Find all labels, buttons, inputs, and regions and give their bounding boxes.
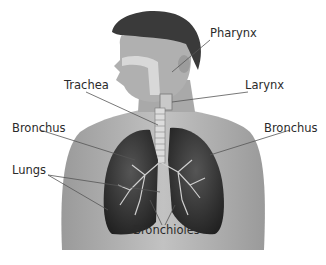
ear [178, 55, 190, 73]
label-bronchus-left: Bronchus [12, 123, 66, 135]
label-lungs: Lungs [12, 165, 46, 177]
label-pharynx: Pharynx [210, 28, 257, 40]
larynx [160, 94, 172, 110]
respiratory-diagram: Pharynx Trachea Larynx Bronchus Bronchus… [0, 0, 326, 265]
label-larynx: Larynx [245, 80, 284, 92]
label-bronchioles: Bronchioles [133, 225, 200, 237]
label-bronchus-right: Bronchus [264, 123, 318, 135]
label-trachea: Trachea [64, 80, 109, 92]
